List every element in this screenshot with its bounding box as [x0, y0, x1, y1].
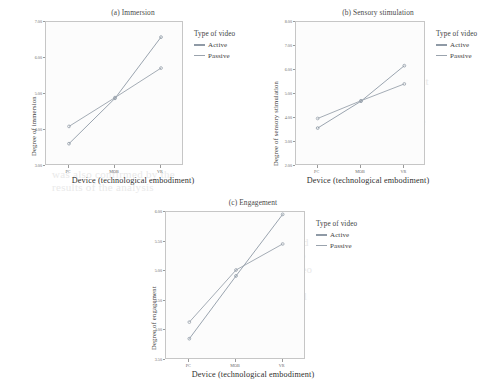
- x-tick-label-b-mob: MOB: [355, 169, 365, 174]
- y-tick-mark-b: [293, 45, 296, 46]
- y-tick-mark-c: [163, 241, 166, 242]
- legend-item-active-c[interactable]: Active: [316, 231, 357, 239]
- x-tick-label-c-pc: PC: [186, 363, 191, 368]
- y-tick-mark-a: [43, 93, 46, 94]
- data-lines-c: [166, 212, 306, 360]
- series-line-c-active: [189, 214, 282, 338]
- x-tick-mark-b: [403, 165, 404, 168]
- legend-swatch-active-a: [194, 44, 205, 45]
- x-tick-label-b-pc: PC: [314, 169, 319, 174]
- legend-label-active-b: Active: [450, 41, 469, 49]
- plot-area-b: [295, 21, 425, 165]
- legend-label-passive-b: Passive: [450, 52, 472, 60]
- x-tick-mark-b: [317, 165, 318, 168]
- x-tick-mark-a: [114, 165, 115, 168]
- y-tick-mark-b: [293, 141, 296, 142]
- y-tick-label-b: 6.00: [279, 67, 292, 72]
- y-tick-mark-c: [163, 329, 166, 330]
- legend-swatch-passive-a: [194, 55, 205, 56]
- series-line-a-active: [69, 37, 161, 144]
- legend-item-active-a[interactable]: Active: [194, 41, 235, 49]
- legend-item-passive-c[interactable]: Passive: [316, 242, 357, 250]
- chart-panel-sensory-stimulation: (b) Sensory stimulation Degree of sensor…: [258, 8, 498, 193]
- y-tick-label-c: 5.00: [149, 268, 162, 273]
- y-tick-mark-b: [293, 165, 296, 166]
- x-tick-mark-c: [282, 359, 283, 362]
- series-line-a-passive: [69, 68, 161, 126]
- y-tick-label-c: 4.00: [149, 327, 162, 332]
- y-tick-label-b: 2.00: [279, 163, 292, 168]
- y-tick-label-c: 6.00: [149, 209, 162, 214]
- x-axis-label-b: Device (technological embodiment): [248, 176, 488, 185]
- legend-item-active-b[interactable]: Active: [436, 41, 477, 49]
- y-tick-label-c: 4.50: [149, 297, 162, 302]
- chart-panel-immersion: (a) Immersion Degree of immersion Device…: [8, 8, 258, 193]
- data-point-c-passive-vr: [281, 243, 284, 246]
- y-tick-mark-a: [43, 57, 46, 58]
- x-tick-mark-a: [160, 165, 161, 168]
- y-tick-mark-c: [163, 270, 166, 271]
- series-line-b-passive: [318, 84, 405, 119]
- legend-label-passive-a: Passive: [208, 52, 230, 60]
- figure-page: the second hypothesis that the use of mo…: [0, 0, 500, 392]
- legend-swatch-passive-b: [436, 55, 447, 56]
- legend-label-active-c: Active: [330, 231, 349, 239]
- series-line-b-active: [318, 66, 405, 128]
- y-tick-label-c: 3.50: [149, 357, 162, 362]
- series-line-c-passive: [189, 244, 282, 322]
- legend-swatch-passive-c: [316, 245, 327, 246]
- y-tick-mark-c: [163, 359, 166, 360]
- x-axis-label-a: Device (technological embodiment): [8, 176, 258, 185]
- y-tick-label-b: 4.00: [279, 115, 292, 120]
- y-tick-mark-a: [43, 21, 46, 22]
- y-tick-label-a: 6.00: [29, 55, 42, 60]
- y-tick-mark-c: [163, 300, 166, 301]
- x-tick-label-a-vr: VR: [157, 169, 163, 174]
- y-tick-label-a: 3.00: [29, 163, 42, 168]
- y-tick-mark-b: [293, 93, 296, 94]
- x-tick-label-a-pc: PC: [65, 169, 70, 174]
- legend-label-active-a: Active: [208, 41, 227, 49]
- x-tick-mark-c: [188, 359, 189, 362]
- y-tick-label-b: 8.00: [279, 19, 292, 24]
- plot-area-a: [45, 21, 183, 165]
- y-tick-mark-b: [293, 21, 296, 22]
- y-tick-label-a: 7.00: [29, 19, 42, 24]
- chart-title-b: (b) Sensory stimulation: [258, 8, 498, 17]
- x-tick-label-c-mob: MOB: [230, 363, 240, 368]
- legend-c: Type of video Active Passive: [316, 220, 357, 250]
- y-tick-mark-b: [293, 69, 296, 70]
- data-lines-b: [296, 22, 426, 166]
- legend-swatch-active-b: [436, 44, 447, 45]
- x-tick-mark-c: [235, 359, 236, 362]
- x-tick-mark-a: [68, 165, 69, 168]
- y-tick-label-b: 3.00: [279, 139, 292, 144]
- x-tick-label-a-mob: MOB: [109, 169, 119, 174]
- y-tick-mark-b: [293, 117, 296, 118]
- y-axis-label-b: Degree of sensory stimulation: [272, 81, 279, 166]
- y-axis-label-c: Degree of engagement: [150, 286, 157, 350]
- legend-title-b: Type of video: [436, 30, 477, 38]
- y-tick-label-b: 7.00: [279, 43, 292, 48]
- y-tick-label-b: 5.00: [279, 91, 292, 96]
- x-tick-mark-b: [360, 165, 361, 168]
- x-tick-label-b-vr: VR: [400, 169, 406, 174]
- y-tick-label-a: 5.00: [29, 91, 42, 96]
- y-tick-mark-a: [43, 165, 46, 166]
- legend-item-passive-a[interactable]: Passive: [194, 52, 235, 60]
- x-tick-label-c-vr: VR: [279, 363, 285, 368]
- legend-b: Type of video Active Passive: [436, 30, 477, 60]
- y-tick-label-a: 4.00: [29, 127, 42, 132]
- y-tick-label-c: 5.50: [149, 238, 162, 243]
- legend-item-passive-b[interactable]: Passive: [436, 52, 477, 60]
- x-axis-label-c: Device (technological embodiment): [128, 370, 378, 379]
- chart-title-c: (c) Engagement: [128, 198, 378, 207]
- legend-label-passive-c: Passive: [330, 242, 352, 250]
- chart-title-a: (a) Immersion: [8, 8, 258, 17]
- legend-a: Type of video Active Passive: [194, 30, 235, 60]
- legend-title-a: Type of video: [194, 30, 235, 38]
- data-point-b-active-vr: [403, 64, 406, 67]
- data-lines-a: [46, 22, 184, 166]
- chart-panel-engagement: (c) Engagement Degree of engagement Devi…: [128, 198, 378, 388]
- legend-swatch-active-c: [316, 234, 327, 235]
